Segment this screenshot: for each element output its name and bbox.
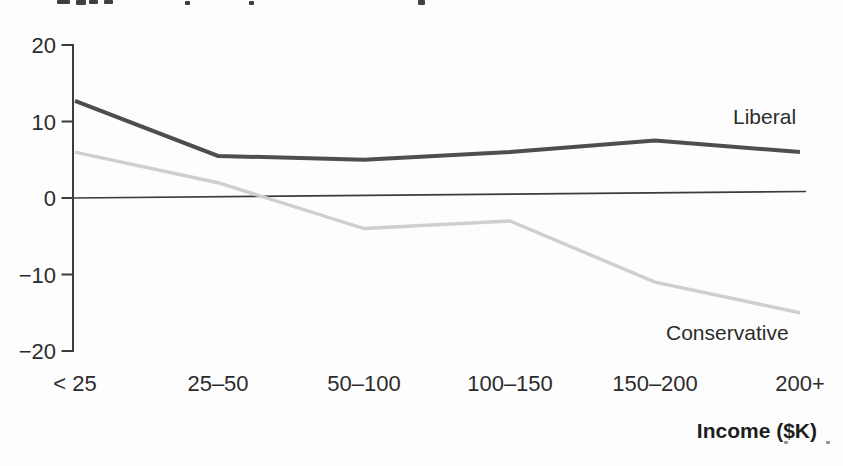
zero-baseline bbox=[74, 192, 806, 199]
x-axis-category-label: 50–100 bbox=[327, 371, 400, 396]
series-label-liberal: Liberal bbox=[733, 105, 796, 129]
series-line-liberal bbox=[75, 101, 800, 160]
y-axis-tick-label: 10 bbox=[32, 110, 56, 135]
y-axis-tick-label: 20 bbox=[32, 33, 56, 58]
x-axis-category-label: < 25 bbox=[53, 371, 96, 396]
x-axis-category-label: 25–50 bbox=[187, 371, 248, 396]
x-axis-category-label: 100–150 bbox=[467, 371, 553, 396]
x-axis-category-label: 200+ bbox=[775, 371, 825, 396]
y-axis-tick-label: 0 bbox=[44, 186, 56, 211]
line-chart: 20100−10−20< 2525–5050–100100–150150–200… bbox=[0, 0, 843, 466]
x-axis-category-label: 150–200 bbox=[612, 371, 698, 396]
chart-figure: 20100−10−20< 2525–5050–100100–150150–200… bbox=[0, 0, 843, 466]
x-axis-title: Income ($K) bbox=[697, 419, 817, 443]
series-label-conservative: Conservative bbox=[666, 321, 789, 345]
y-axis-tick-label: −20 bbox=[19, 339, 56, 364]
y-axis-tick-label: −10 bbox=[19, 263, 56, 288]
series-line-conservative bbox=[75, 152, 800, 313]
